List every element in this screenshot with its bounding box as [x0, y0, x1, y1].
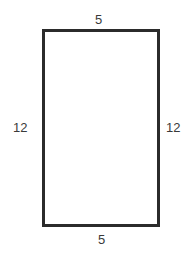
left-side-label: 12 [13, 121, 27, 134]
bottom-side-label: 5 [98, 233, 105, 246]
rectangle-shape [42, 29, 160, 227]
top-side-label: 5 [95, 13, 102, 26]
right-side-label: 12 [166, 121, 180, 134]
